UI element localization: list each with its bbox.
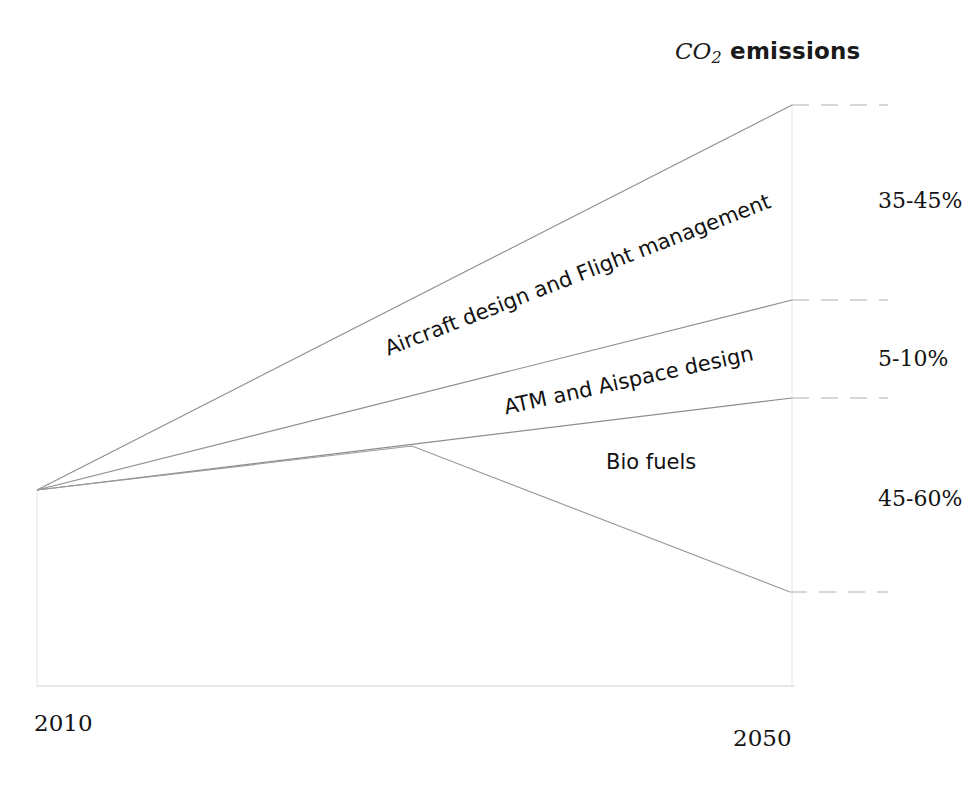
wedge-diagram <box>0 0 980 785</box>
wedge-top-boundary <box>37 105 792 490</box>
pct-label-bio-fuels: 45-60% <box>878 488 962 510</box>
pct-label-aircraft-design-and-flight-management: 35-45% <box>878 190 962 212</box>
band-label-bio-fuels: Bio fuels <box>606 452 696 473</box>
title-rest: emissions <box>730 38 860 64</box>
page-title: CO2 emissions <box>675 40 860 66</box>
title-subscript-2: 2 <box>711 48 721 67</box>
x-axis-label-end-year: 2050 <box>733 727 792 750</box>
chart-canvas: CO2 emissions Aircraft design and Flight… <box>0 0 980 785</box>
pct-label-atm-and-aispace-design: 5-10% <box>878 348 948 370</box>
x-axis-label-start-year: 2010 <box>34 712 93 735</box>
title-co-italic: CO <box>675 38 711 64</box>
